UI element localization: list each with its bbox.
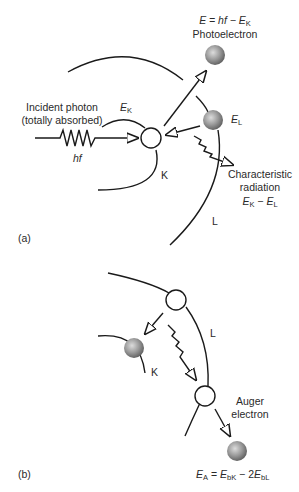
photoelectron-arrow (164, 71, 206, 126)
auger-electron (227, 441, 247, 461)
panel-a (35, 45, 233, 245)
auger-vacancy (195, 386, 215, 406)
incident-photon-label: Incident photon (12, 101, 112, 113)
l-shell-arc-upper (108, 273, 169, 293)
k-shell-electron (124, 338, 144, 358)
k-shell-arc-bottom (98, 150, 157, 190)
incident-photon-wave (35, 130, 138, 146)
l-to-k-arrow (145, 313, 163, 334)
l-shell-arc-right (186, 307, 208, 386)
l-shell-arc-top (68, 57, 183, 80)
characteristic-radiation-wave (194, 136, 233, 165)
panel-b (98, 273, 247, 461)
photoelectron-label: Photoelectron (185, 28, 265, 40)
characteristic-radiation-label: Characteristic (222, 168, 298, 180)
k-shell-energy-label: EK (120, 101, 132, 117)
auger-sublabel: electron (225, 408, 275, 420)
photon-energy-label: hf (73, 152, 82, 164)
l-shell-arc-lower (185, 403, 200, 436)
k-vacancy (141, 128, 161, 148)
k-shell-label-b: K (151, 366, 158, 378)
panel-a-tag: (a) (18, 232, 31, 244)
characteristic-radiation-equation: EK − EL (222, 195, 298, 211)
auger-energy-equation: EA = EbK − 2EbL (196, 468, 269, 484)
l-shell-energy-label: EL (231, 113, 242, 129)
photoelectron (205, 45, 225, 65)
incident-photon-sublabel: (totally absorbed) (12, 114, 112, 126)
k-shell-label: K (161, 169, 168, 181)
l-shell-arc-right (170, 130, 219, 245)
auger-label: Auger (225, 395, 275, 407)
panel-b-tag: (b) (18, 468, 31, 480)
l-shell-label-b: L (210, 327, 216, 339)
internal-photon-wave (168, 325, 196, 380)
l-shell-electron (203, 110, 223, 130)
l-shell-label: L (212, 215, 218, 227)
l-vacancy-top (166, 290, 186, 310)
characteristic-radiation-sublabel: radiation (222, 181, 298, 193)
transition-arrow (166, 126, 200, 135)
l-shell-arc-right-upper (196, 96, 208, 112)
